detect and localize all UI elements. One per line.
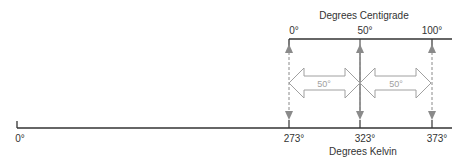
kelvin-tick-323: 323° xyxy=(355,133,376,144)
centigrade-axis: Degrees Centigrade 0° 50° 100° xyxy=(289,10,452,46)
centigrade-tick-50: 50° xyxy=(357,25,372,36)
centigrade-tick-0: 0° xyxy=(289,25,299,36)
kelvin-tick-0: 0° xyxy=(15,133,25,144)
kelvin-tick-373: 373° xyxy=(427,133,448,144)
interval-label-1: 50° xyxy=(317,79,331,89)
interval-label-2: 50° xyxy=(389,79,403,89)
temperature-scale-diagram: Degrees Centigrade 0° 50° 100° 0° 273° 3… xyxy=(0,0,466,161)
centigrade-title: Degrees Centigrade xyxy=(319,10,409,21)
kelvin-tick-273: 273° xyxy=(284,133,305,144)
centigrade-tick-100: 100° xyxy=(422,25,443,36)
kelvin-axis: 0° 273° 323° 373° Degrees Kelvin xyxy=(15,121,452,157)
kelvin-title: Degrees Kelvin xyxy=(329,146,397,157)
